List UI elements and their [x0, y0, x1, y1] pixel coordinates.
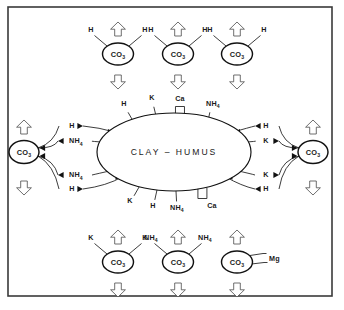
- bond-bottom-NH4: [176, 191, 177, 201]
- diagram-canvas: CLAY – HUMUSHKCaNH4KHNH4CaCO3HHCO3HHCO3H…: [0, 0, 344, 310]
- core-ion-bottom-Ca-4: Ca: [207, 201, 217, 210]
- core-ion-bottom-K-1: K: [127, 196, 133, 205]
- exchange-ion-right-H-4: H: [263, 184, 268, 193]
- exchange-ion-left-H-1: H: [69, 121, 74, 130]
- exchange-ion-right-K-2: K: [263, 136, 269, 145]
- exchange-ion-right-H-1: H: [263, 121, 268, 130]
- exchange-ion-left-H-4: H: [69, 184, 74, 193]
- core-ion-top-K-2: K: [149, 93, 155, 102]
- ligand-top-2-left-H: H: [148, 25, 153, 34]
- ligand-top-3-left-H: H: [207, 25, 212, 34]
- ligand-bot-3-Mg: Mg: [269, 254, 280, 263]
- core-ion-top-H-1: H: [121, 99, 126, 108]
- core-label: CLAY – HUMUS: [131, 147, 218, 157]
- ligand-top-3-right-H: H: [261, 25, 266, 34]
- cation-exchange-figure: CLAY – HUMUSHKCaNH4KHNH4CaCO3HHCO3HHCO3H…: [0, 0, 344, 310]
- ligand-top-1-left-H: H: [88, 25, 93, 34]
- core-ion-bottom-H-2: H: [150, 201, 155, 210]
- ligand-top-1-right-H: H: [142, 25, 147, 34]
- exchange-ion-right-K-3: K: [263, 170, 269, 179]
- core-ion-top-Ca-3: Ca: [175, 94, 185, 103]
- ligand-bot-1-left-K: K: [88, 233, 94, 242]
